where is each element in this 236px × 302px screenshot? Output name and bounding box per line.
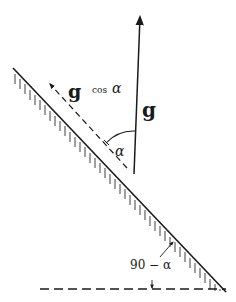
angle-label-incline: 90 − α (130, 258, 171, 272)
component-label-alpha: α (112, 80, 122, 96)
angle-arc-alpha (106, 131, 136, 143)
component-label-g: g (68, 80, 81, 102)
gravity-label-g: g (142, 98, 156, 122)
incline-hatching (15, 74, 220, 291)
angle-label-alpha: α (115, 143, 125, 159)
incline-angle-pointer (160, 242, 173, 257)
inclined-plane (13, 68, 226, 292)
gravity-vector-arrow (134, 17, 140, 174)
incline-line (13, 68, 226, 292)
diagram-canvas: g cos α g α 90 − α (0, 0, 236, 302)
component-label-cos: cos (92, 85, 107, 95)
